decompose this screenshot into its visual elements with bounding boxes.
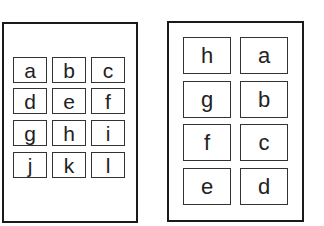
right-sheet: h a g b f c e d — [167, 21, 304, 222]
cell-l: l — [91, 152, 125, 178]
cell-f: f — [183, 124, 231, 161]
cell-d: d — [13, 88, 47, 114]
cell-b: b — [240, 81, 288, 118]
cell-j: j — [13, 152, 47, 178]
left-sheet: a b c d e f g h i j k l — [2, 22, 138, 223]
cell-a: a — [240, 37, 288, 74]
cell-f: f — [91, 88, 125, 114]
cell-g: g — [183, 81, 231, 118]
cell-g: g — [13, 120, 47, 146]
cell-b: b — [52, 57, 86, 83]
cell-e: e — [52, 88, 86, 114]
cell-k: k — [52, 152, 86, 178]
cell-a: a — [13, 57, 47, 83]
cell-h: h — [52, 120, 86, 146]
cell-d: d — [240, 168, 288, 205]
cell-i: i — [91, 120, 125, 146]
cell-c: c — [91, 57, 125, 83]
cell-e: e — [183, 168, 231, 205]
cell-c: c — [240, 124, 288, 161]
cell-h: h — [183, 37, 231, 74]
